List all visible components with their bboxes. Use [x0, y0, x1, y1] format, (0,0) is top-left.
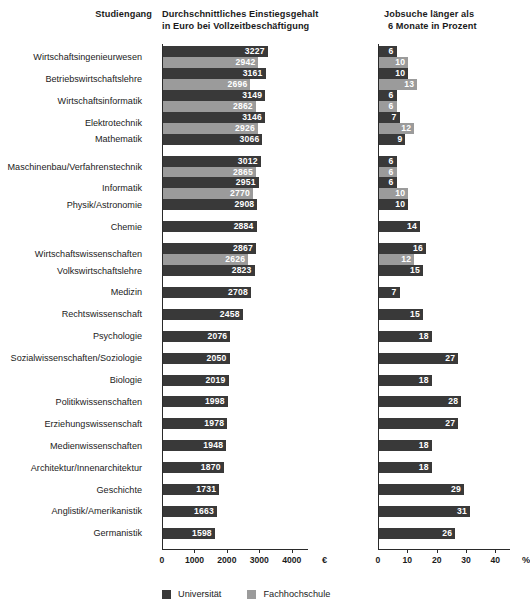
bar-value-label: 18 — [419, 462, 432, 473]
category-label: Volkswirtschaftslehre — [0, 266, 142, 276]
bar-value-label: 2867 — [233, 243, 256, 254]
bar-pct-universitaet: 27 — [379, 353, 458, 364]
category-label: Rechtswissenschaft — [0, 309, 142, 319]
bar-value-label: 6 — [389, 167, 397, 178]
bar-value-label: 10 — [395, 68, 408, 79]
axis-unit-label: % — [522, 555, 530, 565]
bar-value-label: 2908 — [234, 199, 257, 210]
bar-value-label: 3149 — [242, 90, 265, 101]
bar-pct-universitaet: 26 — [379, 528, 455, 539]
bar-value-label: 7 — [392, 112, 400, 123]
bar-value-label: 27 — [445, 418, 458, 429]
bar-pct-fachhochschule: 6 — [379, 167, 397, 178]
bar-value-label: 1978 — [204, 418, 227, 429]
bar-value-label: 2951 — [236, 177, 259, 188]
bar-value-label: 1998 — [205, 396, 228, 407]
bar-salary-fachhochschule: 2626 — [163, 254, 248, 265]
bar-salary-universitaet: 2076 — [163, 331, 230, 342]
bar-salary-universitaet: 3149 — [163, 90, 265, 101]
legend-item-universitaet: Universität — [162, 589, 221, 599]
header-category-column: Studiengang — [0, 0, 152, 42]
bar-value-label: 9 — [397, 134, 405, 145]
legend-swatch-universitaet — [162, 590, 171, 599]
bar-value-label: 15 — [410, 309, 423, 320]
bar-value-label: 12 — [401, 123, 414, 134]
bar-value-label: 2823 — [232, 265, 255, 276]
bar-value-label: 6 — [389, 156, 397, 167]
bar-salary-universitaet: 1598 — [163, 528, 215, 539]
bar-value-label: 3227 — [245, 46, 268, 57]
bar-value-label: 28 — [448, 396, 461, 407]
bar-value-label: 1948 — [203, 440, 226, 451]
bar-value-label: 16 — [413, 243, 426, 254]
bar-value-label: 29 — [451, 484, 464, 495]
axis-tick-label: 20 — [432, 555, 442, 565]
bar-pct-fachhochschule: 12 — [379, 254, 414, 265]
bar-value-label: 2926 — [235, 123, 258, 134]
bar-value-label: 3066 — [240, 134, 263, 145]
bar-pct-universitaet: 6 — [379, 177, 397, 188]
pct-x-axis — [378, 549, 510, 550]
bar-pct-universitaet: 14 — [379, 221, 420, 232]
bar-value-label: 15 — [410, 265, 423, 276]
category-label: Sozialwissenschaften/Soziologie — [0, 353, 142, 363]
bar-salary-universitaet: 1998 — [163, 396, 228, 407]
bar-pct-universitaet: 15 — [379, 309, 423, 320]
axis-tick-label: 4000 — [282, 555, 301, 565]
category-label: Wirtschaftsinformatik — [0, 96, 142, 106]
salary-x-axis — [162, 549, 308, 550]
header-pct-line2: 6 Monate in Prozent — [378, 21, 528, 33]
bar-value-label: 6 — [389, 177, 397, 188]
bar-value-label: 7 — [392, 287, 400, 298]
bar-pct-fachhochschule: 13 — [379, 79, 417, 90]
bar-value-label: 2884 — [234, 221, 257, 232]
category-label: Anglistik/Amerikanistik — [0, 506, 142, 516]
category-label: Maschinenbau/Verfahrenstechnik — [0, 162, 142, 172]
bar-pct-universitaet: 10 — [379, 68, 408, 79]
bar-pct-fachhochschule: 6 — [379, 101, 397, 112]
bar-pct-universitaet: 10 — [379, 199, 408, 210]
legend-item-fachhochschule: Fachhochschule — [247, 589, 330, 599]
bar-value-label: 2708 — [228, 287, 251, 298]
bar-salary-universitaet: 1978 — [163, 418, 227, 429]
bar-value-label: 6 — [389, 46, 397, 57]
axis-unit-label: € — [322, 555, 327, 565]
bar-salary-fachhochschule: 2770 — [163, 188, 253, 199]
bar-pct-fachhochschule: 12 — [379, 123, 414, 134]
axis-tick-label: 10 — [403, 555, 413, 565]
bar-value-label: 2942 — [236, 57, 259, 68]
bar-value-label: 2865 — [233, 167, 256, 178]
bar-salary-universitaet: 2908 — [163, 199, 257, 210]
category-label: Medizin — [0, 287, 142, 297]
bar-value-label: 27 — [445, 353, 458, 364]
category-label: Geschichte — [0, 485, 142, 495]
category-label: Wirtschaftsingenieurwesen — [0, 52, 142, 62]
category-label: Medienwissenschaften — [0, 441, 142, 451]
bar-salary-universitaet: 2050 — [163, 353, 230, 364]
bar-pct-fachhochschule: 10 — [379, 188, 408, 199]
axis-tick-label: 30 — [461, 555, 471, 565]
category-label: Elektrotechnik — [0, 118, 142, 128]
bar-salary-universitaet: 3146 — [163, 112, 265, 123]
bar-value-label: 10 — [395, 199, 408, 210]
bar-value-label: 10 — [395, 188, 408, 199]
bar-value-label: 18 — [419, 440, 432, 451]
bar-pct-universitaet: 7 — [379, 287, 400, 298]
bar-value-label: 31 — [457, 506, 470, 517]
legend-label-fachhochschule: Fachhochschule — [263, 589, 330, 599]
category-label: Architektur/Innenarchitektur — [0, 463, 142, 473]
category-label: Germanistik — [0, 528, 142, 538]
bar-value-label: 1870 — [201, 462, 224, 473]
bar-value-label: 3161 — [243, 68, 266, 79]
bar-pct-universitaet: 18 — [379, 440, 432, 451]
category-label: Psychologie — [0, 331, 142, 341]
bar-salary-universitaet: 2019 — [163, 375, 229, 386]
bar-value-label: 13 — [404, 79, 417, 90]
bar-pct-universitaet: 18 — [379, 331, 432, 342]
bar-value-label: 2076 — [207, 331, 230, 342]
category-label: Erziehungswissenschaft — [0, 419, 142, 429]
bar-value-label: 2696 — [228, 79, 251, 90]
bar-pct-universitaet: 18 — [379, 462, 432, 473]
bar-salary-universitaet: 2708 — [163, 287, 251, 298]
bar-pct-universitaet: 27 — [379, 418, 458, 429]
